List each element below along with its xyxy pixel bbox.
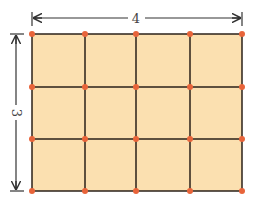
grid-diagram: 4 3 (0, 0, 257, 207)
grid-fill (32, 34, 242, 191)
width-label: 4 (132, 11, 140, 26)
height-label: 3 (9, 109, 24, 117)
